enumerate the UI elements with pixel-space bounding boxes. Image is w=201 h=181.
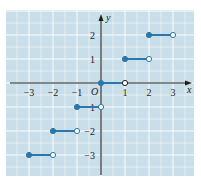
y-axis-label: y xyxy=(105,12,111,23)
closed-dot-icon xyxy=(146,32,151,37)
y-tick-label: −3 xyxy=(84,150,95,161)
step-function-graph: −3−2−1123 −3−2−112 x y O xyxy=(0,0,201,181)
x-axis-label: x xyxy=(186,84,192,95)
open-dot-icon xyxy=(50,152,55,157)
open-dot-icon xyxy=(98,104,103,109)
x-tick-label: −2 xyxy=(48,87,59,98)
x-tick-label: 3 xyxy=(171,87,176,98)
y-tick-label: 2 xyxy=(90,30,95,41)
closed-dot-icon xyxy=(98,80,103,85)
closed-dot-icon xyxy=(26,152,31,157)
y-tick-label: −2 xyxy=(84,126,95,137)
open-dot-icon xyxy=(122,80,127,85)
closed-dot-icon xyxy=(122,56,127,61)
open-dot-icon xyxy=(170,32,175,37)
x-tick-label: 2 xyxy=(147,87,152,98)
x-tick-label: −3 xyxy=(24,87,35,98)
origin-label: O xyxy=(91,86,98,97)
x-tick-label: 1 xyxy=(123,87,128,98)
closed-dot-icon xyxy=(50,128,55,133)
closed-dot-icon xyxy=(74,104,79,109)
open-dot-icon xyxy=(146,56,151,61)
open-dot-icon xyxy=(74,128,79,133)
x-tick-label: −1 xyxy=(72,87,83,98)
y-tick-label: 1 xyxy=(90,54,95,65)
